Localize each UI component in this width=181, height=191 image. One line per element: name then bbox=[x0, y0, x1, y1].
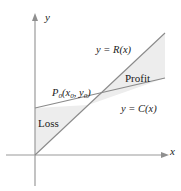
point-subscript: 0 bbox=[58, 92, 62, 100]
profit-region-label: Profit bbox=[125, 73, 150, 84]
loss-region-label: Loss bbox=[38, 118, 59, 129]
break-even-analysis-figure: y x y = R(x) y = C(x) Profit Loss P0(x0,… bbox=[0, 0, 181, 191]
point-y: y bbox=[79, 87, 84, 98]
x-axis-arrow-icon bbox=[161, 152, 169, 158]
point-close-paren: ) bbox=[87, 87, 91, 98]
point-x-subscript: 0 bbox=[70, 92, 74, 100]
break-even-point-label: P0(x0, y0) bbox=[52, 88, 91, 99]
revenue-line-label: y = R(x) bbox=[96, 45, 131, 56]
y-axis-arrow-icon bbox=[32, 13, 38, 21]
x-axis-label: x bbox=[170, 146, 175, 157]
cost-line-label: y = C(x) bbox=[121, 104, 157, 115]
y-axis-label: y bbox=[45, 12, 50, 23]
point-y-subscript: 0 bbox=[84, 92, 88, 100]
